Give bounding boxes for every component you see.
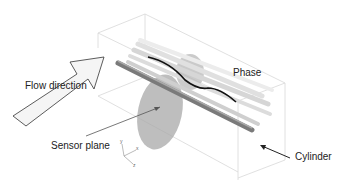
flow-direction-arrow bbox=[13, 57, 104, 126]
sensor-plane-label: Sensor plane bbox=[51, 141, 110, 151]
axis-x-label: x bbox=[136, 146, 139, 151]
axis-y-label: y bbox=[120, 139, 123, 144]
phase-label: Phase bbox=[233, 68, 261, 78]
axis-triad bbox=[122, 144, 136, 164]
axis-z-label: z bbox=[133, 163, 136, 168]
cylinder-pointer bbox=[262, 146, 290, 158]
cylinder-label: Cylinder bbox=[295, 152, 332, 162]
flow-diagram: Flow direction Phase Sensor plane Cylind… bbox=[0, 0, 348, 190]
flow-direction-label: Flow direction bbox=[25, 81, 87, 91]
